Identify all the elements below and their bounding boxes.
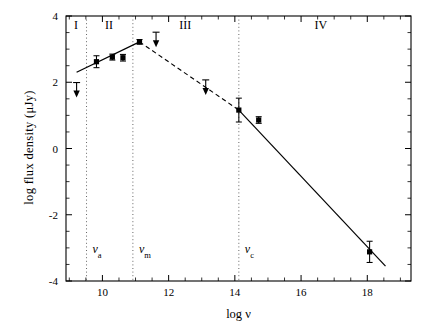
fit-line-solid [239, 110, 386, 266]
data-point-marker [120, 55, 125, 60]
region-label: IV [315, 18, 328, 32]
break-frequency-label: νc [245, 242, 254, 260]
break-frequency-label: νa [93, 242, 102, 260]
x-axis-title: log ν [226, 307, 251, 321]
region-label: II [105, 18, 113, 32]
x-tick-label: 12 [163, 286, 174, 298]
x-tick-label: 18 [362, 286, 374, 298]
x-tick-label: 14 [229, 286, 241, 298]
figure-container: 1012141618-4-2024νaνmνcIIIIIIIVlog ν log… [0, 0, 426, 328]
fit-line-dashed [140, 42, 239, 110]
break-frequency-label: νm [139, 242, 151, 260]
y-tick-label: -2 [49, 209, 58, 221]
y-tick-label: 0 [53, 143, 59, 155]
upper-limit-arrowhead-icon [203, 88, 209, 95]
data-point-marker [236, 107, 241, 112]
x-tick-label: 16 [296, 286, 308, 298]
sed-plot: 1012141618-4-2024νaνmνcIIIIIIIVlog ν [0, 0, 426, 328]
upper-limit-arrowhead-icon [73, 91, 79, 98]
data-point-marker [367, 249, 372, 254]
y-tick-label: 2 [53, 76, 59, 88]
fit-line-solid [77, 42, 140, 72]
data-point-marker [110, 54, 115, 59]
x-tick-label: 10 [97, 286, 109, 298]
data-point-marker [137, 39, 142, 44]
y-tick-label: -4 [49, 275, 59, 287]
upper-limit-arrowhead-icon [153, 40, 159, 47]
y-axis-title: log flux density (μJy) [22, 23, 37, 273]
y-tick-label: 4 [53, 10, 59, 22]
data-point-marker [94, 59, 99, 64]
region-label: III [179, 18, 191, 32]
data-point-marker [256, 117, 261, 122]
region-label: I [74, 18, 78, 32]
